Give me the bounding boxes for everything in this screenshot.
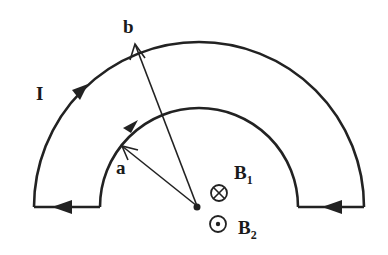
field2-label-main: B [238, 217, 251, 238]
field2-label-sub: 2 [251, 228, 257, 242]
inner-radius-label: a [116, 158, 126, 177]
arrow-right-segment-icon [322, 200, 342, 214]
field-out-of-page-icon [210, 216, 226, 232]
outer-radius-label: b [123, 17, 134, 36]
field-into-page-icon [211, 185, 227, 201]
field1-label-sub: 1 [247, 173, 253, 187]
field2-label: B2 [238, 218, 257, 237]
inner-arc [100, 108, 298, 207]
loop-diagram [0, 0, 388, 255]
field1-label-main: B [234, 162, 247, 183]
current-label: I [36, 84, 43, 103]
field1-label: B1 [234, 163, 253, 182]
arrow-left-segment-icon [52, 200, 72, 214]
outer-arc [34, 42, 364, 207]
center-point [194, 204, 201, 211]
diagram-canvas: I b a B1 B2 [0, 0, 388, 255]
